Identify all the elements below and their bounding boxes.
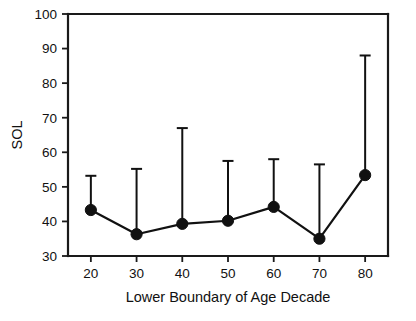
x-tick-label: 50 (220, 266, 235, 281)
x-tick-label: 80 (358, 266, 373, 281)
data-point-marker (85, 204, 96, 215)
x-tick-label: 30 (129, 266, 144, 281)
y-tick-label: 30 (42, 249, 57, 264)
y-tick-label: 60 (42, 145, 57, 160)
y-tick-group: 30405060708090100 (34, 7, 68, 264)
x-tick-label: 70 (312, 266, 327, 281)
data-point-marker (222, 215, 233, 226)
y-tick-label: 70 (42, 111, 57, 126)
error-bar-chart: 30405060708090100 20304050607080 Lower B… (0, 0, 416, 321)
data-point-marker (131, 229, 142, 240)
x-tick-label: 20 (83, 266, 98, 281)
x-tick-group: 20304050607080 (83, 256, 372, 281)
y-tick-label: 100 (34, 7, 57, 22)
data-point-marker (177, 218, 188, 229)
x-tick-label: 60 (266, 266, 281, 281)
y-axis-title: SOL (9, 120, 25, 149)
y-tick-label: 40 (42, 214, 57, 229)
y-tick-label: 50 (42, 180, 57, 195)
x-axis-title: Lower Boundary of Age Decade (126, 289, 331, 305)
y-tick-label: 90 (42, 41, 57, 56)
chart-container: 30405060708090100 20304050607080 Lower B… (0, 0, 416, 321)
x-tick-label: 40 (175, 266, 190, 281)
data-point-marker (268, 201, 279, 212)
data-point-marker (314, 233, 325, 244)
data-point-marker (360, 170, 371, 181)
y-tick-label: 80 (42, 76, 57, 91)
